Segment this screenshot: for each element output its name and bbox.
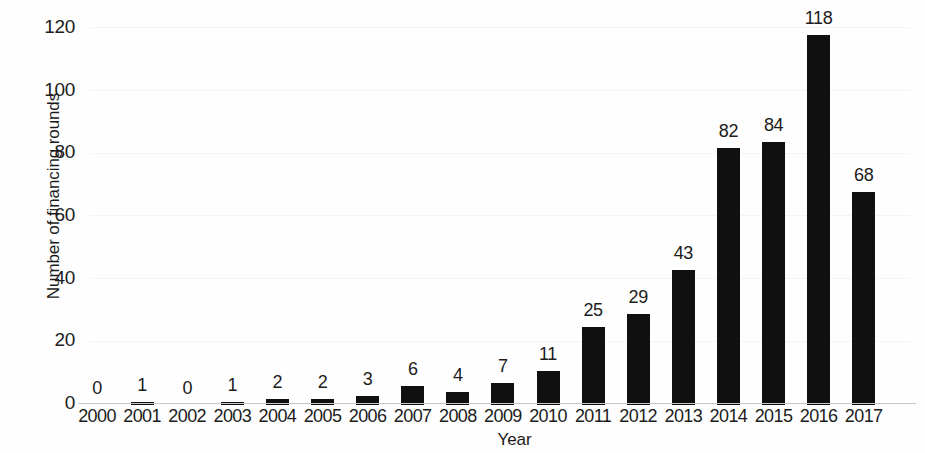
bar [762, 142, 785, 405]
bar [852, 192, 875, 405]
y-axis-tick-label: 120 [31, 17, 75, 36]
y-axis-tick-label: 100 [31, 80, 75, 99]
bar [672, 270, 695, 405]
bar [717, 148, 740, 405]
bar [627, 314, 650, 405]
bar-value-label: 68 [834, 166, 894, 184]
bar [582, 327, 605, 405]
bar [311, 399, 334, 405]
y-axis-tick-label: 80 [31, 142, 75, 161]
y-axis-tick-label: 60 [31, 205, 75, 224]
bar-value-label: 43 [653, 244, 713, 262]
bar-value-label: 11 [518, 345, 578, 363]
bar-value-label: 84 [744, 116, 804, 134]
bar-value-label: 29 [608, 288, 668, 306]
plot-area [78, 20, 916, 404]
bar [807, 35, 830, 405]
x-axis-title: Year [52, 430, 925, 450]
bar-chart: Number of financing rounds 0204060801001… [0, 0, 925, 453]
bar [266, 399, 289, 405]
bar-value-label: 118 [789, 9, 849, 27]
x-axis-line [78, 403, 916, 404]
y-axis-tick-label: 20 [31, 330, 75, 349]
bar [491, 383, 514, 405]
bar [537, 371, 560, 405]
y-axis-tick-label: 40 [31, 268, 75, 287]
x-axis-tick-label: 2017 [834, 407, 894, 425]
